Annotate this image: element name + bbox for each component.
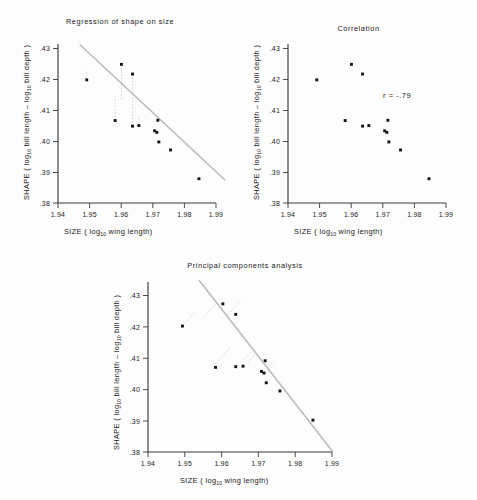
y-tick-labels: .43 .42 .41 .40 .39 .38 xyxy=(270,45,280,207)
svg-text:1.94: 1.94 xyxy=(141,460,155,467)
svg-text:.38: .38 xyxy=(130,449,140,456)
svg-text:.40: .40 xyxy=(130,386,140,393)
x-tick-labels: 1.94 1.95 1.96 1.97 1.98 1.99 xyxy=(51,211,223,218)
data-points xyxy=(181,302,314,421)
correlation-coefficient-annotation: r = -.79 xyxy=(383,91,411,100)
data-points xyxy=(315,63,430,180)
svg-text:1.99: 1.99 xyxy=(325,460,339,467)
residual-lines-vertical xyxy=(87,64,139,126)
panel-regression-ylabel: SHAPE ( log10 bill length – log10 bill d… xyxy=(22,45,32,200)
svg-text:1.97: 1.97 xyxy=(146,211,160,218)
svg-text:.43: .43 xyxy=(40,45,50,52)
figure-root: Regression of shape on size .43 .42 .41 … xyxy=(0,0,477,500)
svg-text:1.98: 1.98 xyxy=(177,211,191,218)
panel-correlation-ylabel: SHAPE ( log10 bill length – log10 bill d… xyxy=(252,45,262,200)
axis-lines xyxy=(58,44,216,203)
panel-pca-xlabel: SIZE ( log10 wing length) xyxy=(180,476,269,486)
svg-text:.39: .39 xyxy=(270,169,280,176)
svg-text:.38: .38 xyxy=(40,200,50,207)
x-tick-marks xyxy=(58,203,216,208)
svg-text:1.94: 1.94 xyxy=(281,211,295,218)
svg-text:.43: .43 xyxy=(130,292,140,299)
panel-pca-plot: .43 .42 .41 .40 .39 .38 1.94 1.95 1.96 1… xyxy=(100,250,360,500)
svg-text:.38: .38 xyxy=(270,200,280,207)
panel-correlation-xlabel: SIZE ( log10 wing length) xyxy=(294,227,383,237)
svg-text:1.94: 1.94 xyxy=(51,211,65,218)
y-tick-marks xyxy=(143,296,148,453)
svg-text:.40: .40 xyxy=(270,138,280,145)
data-points xyxy=(85,63,200,180)
svg-text:.42: .42 xyxy=(130,324,140,331)
svg-text:1.95: 1.95 xyxy=(82,211,96,218)
svg-text:1.96: 1.96 xyxy=(344,211,358,218)
svg-text:.41: .41 xyxy=(270,107,280,114)
panel-regression-xlabel: SIZE ( log10 wing length) xyxy=(64,227,153,237)
pca-axis-line xyxy=(199,280,333,452)
svg-text:.40: .40 xyxy=(40,138,50,145)
panel-pca-ylabel: SHAPE ( log10 bill length – log10 bill d… xyxy=(112,295,122,450)
svg-text:.39: .39 xyxy=(40,169,50,176)
y-tick-labels: .43 .42 .41 .40 .39 .38 xyxy=(130,292,140,456)
y-tick-labels: .43 .42 .41 .40 .39 .38 xyxy=(40,45,50,207)
svg-text:1.98: 1.98 xyxy=(407,211,421,218)
regression-fit-line xyxy=(80,45,225,181)
axis-lines xyxy=(288,44,446,203)
y-tick-marks xyxy=(53,49,58,204)
svg-text:1.99: 1.99 xyxy=(209,211,223,218)
svg-text:1.99: 1.99 xyxy=(439,211,453,218)
svg-text:1.97: 1.97 xyxy=(251,460,265,467)
svg-text:1.98: 1.98 xyxy=(288,460,302,467)
svg-text:1.96: 1.96 xyxy=(214,460,228,467)
panel-regression-plot: .43 .42 .41 .40 .39 .38 1.94 1.95 1.96 xyxy=(0,0,240,245)
svg-text:.41: .41 xyxy=(130,355,140,362)
svg-text:1.95: 1.95 xyxy=(312,211,326,218)
svg-text:.43: .43 xyxy=(270,45,280,52)
x-tick-labels: 1.94 1.95 1.96 1.97 1.98 1.99 xyxy=(281,211,453,218)
y-tick-marks xyxy=(283,49,288,204)
panel-regression: Regression of shape on size .43 .42 .41 … xyxy=(0,0,240,245)
svg-text:.42: .42 xyxy=(270,76,280,83)
axis-lines xyxy=(148,282,332,452)
x-tick-marks xyxy=(288,203,446,208)
svg-text:1.95: 1.95 xyxy=(178,460,192,467)
x-tick-marks xyxy=(148,452,332,457)
panel-pca: Principal components analysis .43 .42 .4… xyxy=(100,250,360,500)
panel-correlation: Correlation .43 .42 .41 .40 .39 .38 xyxy=(240,0,477,245)
svg-text:.41: .41 xyxy=(40,107,50,114)
svg-text:.39: .39 xyxy=(130,418,140,425)
svg-text:.42: .42 xyxy=(40,76,50,83)
svg-text:1.97: 1.97 xyxy=(376,211,390,218)
x-tick-labels: 1.94 1.95 1.96 1.97 1.98 1.99 xyxy=(141,460,339,467)
svg-text:1.96: 1.96 xyxy=(114,211,128,218)
panel-correlation-plot: .43 .42 .41 .40 .39 .38 1.94 1.95 1.96 1… xyxy=(240,0,477,245)
